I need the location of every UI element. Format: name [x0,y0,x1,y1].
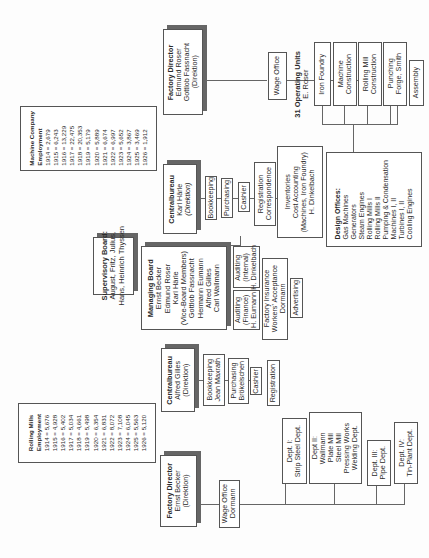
connector [322,124,398,125]
employment-row: 1921 = 6,674 [101,130,108,166]
box-line: Dormann [229,489,238,519]
centralbureau-gilles-box[interactable]: Centralbureau Alfred Gilles (Direktion) [161,348,195,412]
unit-machine-construction[interactable]: MachineConstruction [333,42,357,106]
factory-director-machine-box[interactable]: Factory Director Edmund Roser Gottlob Fa… [163,29,203,115]
box-line: Purchasing [222,180,231,216]
rolling-mills-employment-table: Rolling Mills Employment 1914 = 5,676 19… [18,403,156,463]
box-line: E. Roser [301,69,310,98]
factory-director-rolling-box[interactable]: Factory Director Ernst Becker (Direktion… [160,455,197,527]
employment-row: 1917 = 22,475 [68,126,75,166]
inventories-cost-accounting-box[interactable]: Inventories Cost Accounting (Machines, I… [277,146,323,238]
box-title: 31 Operating Units [293,51,302,118]
design-office-item: Rolling Mills II [374,196,381,239]
employment-row: 1925 = 5,563 [131,415,138,451]
design-office-item: Steam Engines [358,192,365,239]
box-line: H. Dinkelbach [250,245,259,290]
employment-row: 1926 = 1,912 [141,130,148,166]
employment-row: 1919 = 5,498 [83,415,90,451]
box-line: (Direktion) [182,474,191,507]
box-line: Hans, Heinrich Thyssen [117,226,126,305]
design-office-item: Machines I, II [390,198,397,240]
employment-row: 1916 = 13,229 [60,126,67,166]
connector [376,484,377,504]
dept-2-wallmann[interactable]: Dept II: Wallmann Plate Mill Steel Mill … [309,412,362,484]
connector [397,106,398,124]
bookkeeping-rolling-box[interactable]: BookkeepingJean Maxrath [203,354,225,406]
box-line: Wage Office [272,56,281,95]
employment-subtitle: Employment [35,414,42,451]
design-office-item: Gas Machines [342,194,349,239]
employment-row: 1916 = 5,402 [59,415,66,451]
dept-3-pipe[interactable]: Dept. III:Pipe Dept. [367,440,391,486]
auditing-internal-box[interactable]: Auditing (Internal) H. Dinkelbach [233,246,260,288]
dept-1-strip-steel[interactable]: Dept. I:Strip Steel Dept. [282,418,307,484]
box-line: (Direktion) [190,55,199,88]
connector [197,504,219,505]
unit-punching-forge-smith[interactable]: PunchingForge, Smith [383,42,407,106]
cashier-machine-box[interactable]: Cashier [238,182,250,212]
design-office-item: Cooling Engines [406,188,413,239]
box-line: (Direktion) [181,363,190,396]
registration-rolling-box[interactable]: Registration [267,360,280,406]
purchasing-rolling-box[interactable]: PurchasingBrökelschen [228,358,249,404]
connector [203,80,267,81]
wage-office-rolling-box[interactable]: Wage OfficeDormann [219,480,240,528]
employment-row: 1925 = 3,469 [133,130,140,166]
advertising-box[interactable]: Advertising [290,278,303,318]
employment-row: 1918 = 4,661 [75,415,82,451]
employment-row: 1923 = 7,108 [115,415,122,451]
employment-title: Machine Company [28,111,35,166]
employment-row: 1920 = 5,889 [93,130,100,166]
box-line: (Direktion) [183,182,192,215]
purchasing-machine-box[interactable]: Purchasing [221,178,233,218]
factory-insurance-box[interactable]: Factory Insurance Workers' Acceptance Do… [262,258,288,340]
supervisory-board-box[interactable]: Supervisory Board: August, Fritz, Julius… [93,237,134,295]
design-office-item: Rolling Mills I [366,198,373,239]
employment-row: 1914 = 5,676 [43,415,50,451]
connector [285,484,286,504]
dept-4-tin-plant[interactable]: Dept. IV:Tin-Plant Dept. [394,422,418,484]
box-line: H. Dinkelbach [307,170,316,215]
box-line: Registration [268,364,277,402]
unit-rolling-mill-construction[interactable]: Rolling MillConstruction [358,42,382,106]
box-line: Cashier [239,185,248,210]
box-line: Correspondence [264,167,273,220]
managing-board-box[interactable]: Managing Board Ernst Becker Edmund Roser… [141,246,227,330]
connector [367,106,368,124]
box-line: Welding Dept. [351,425,360,470]
cashier-rolling-box[interactable]: Cashier [250,367,262,395]
connector [334,484,335,504]
connector [404,484,405,504]
box-line: Cashier [251,369,260,394]
employment-row: 1924 = 6,045 [123,415,130,451]
design-offices-box[interactable]: Design Offices: Gas Machines Generators … [326,152,422,247]
box-line: Forge, Smith [394,53,403,94]
box-line: Brökelschen [238,361,247,401]
box-line: Construction [369,54,378,94]
machine-company-employment-table: Machine Company Employment 1914 = 2,679 … [20,106,157,171]
connector [322,106,323,124]
employment-row: 1923 = 5,652 [117,130,124,166]
connector [390,106,391,124]
employment-row: 1924 = 3,867 [125,130,132,166]
employment-row: 1917 = 5,034 [67,415,74,451]
box-line: Bookkeeping [206,177,215,219]
centralbureau-haerle-box[interactable]: Centralbureau Karl Härle (Direktion) [163,164,197,234]
bookkeeping-machine-box[interactable]: Bookkeeping [205,176,217,220]
box-line: Carl Wallmann [212,264,221,312]
box-line: Tin-Plant Dept. [405,429,414,477]
employment-subtitle: Employment [36,129,43,166]
employment-row: 1922 = 8,072 [107,415,114,451]
org-chart: Machine Company Employment 1914 = 2,679 … [0,0,429,558]
employment-row: 1915 = 4,928 [51,415,58,451]
box-title: Design Offices: [334,188,341,239]
unit-assembly[interactable]: Assembly [409,60,424,106]
connector [344,106,345,124]
unit-iron-foundry[interactable]: Iron Foundry [314,42,331,106]
registration-correspondence-box[interactable]: RegistrationCorrespondence [254,162,276,226]
auditing-finance-box[interactable]: Auditing (Finance) H. Eumann [233,290,260,330]
employment-row: 1915 = 6,243 [52,130,59,166]
box-line: Assembly [411,67,420,98]
employment-row: 1919 = 5,179 [84,130,91,166]
design-office-item: Pumping & Condensation [382,160,389,239]
